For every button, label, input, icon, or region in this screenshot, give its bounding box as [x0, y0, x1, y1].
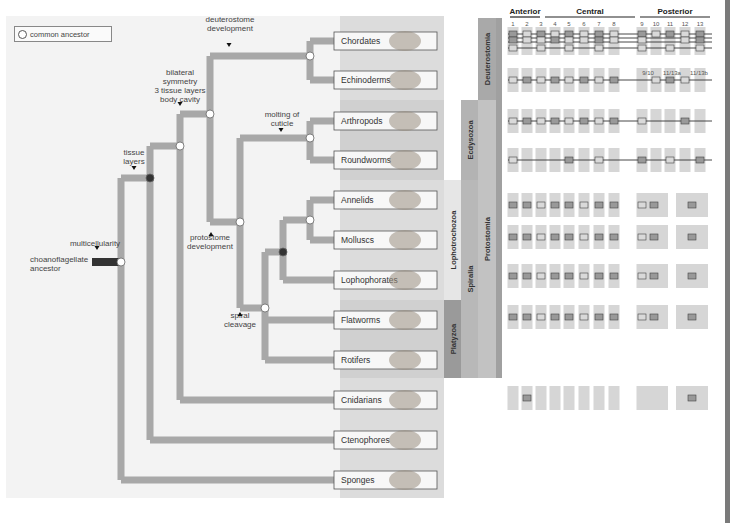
taxon-label-roundworms: Roundworms — [341, 155, 391, 165]
hox-gene-box — [565, 37, 573, 43]
hox-gene-box — [580, 273, 588, 279]
hox-gene-box — [650, 273, 658, 279]
hox-gene-box — [551, 37, 559, 43]
hox-gene-box — [551, 273, 559, 279]
hox-gene-box — [509, 31, 517, 37]
hox-gene-box — [523, 118, 531, 124]
filled-node-icon — [279, 248, 287, 256]
event-label-bilateral: symmetry — [163, 77, 198, 86]
branch — [147, 178, 154, 440]
hox-gene-box — [509, 314, 517, 320]
event-label-deuterostome: deuterostome — [206, 15, 255, 24]
clade-label: Protostomia — [483, 216, 492, 261]
gene-number: 4 — [553, 21, 557, 27]
legend-label: common ancestor — [30, 30, 90, 39]
branch — [177, 146, 184, 400]
branch — [118, 262, 125, 480]
gene-column — [508, 386, 519, 410]
common-ancestor-node-icon — [306, 52, 314, 60]
gene-number: 5 — [567, 21, 571, 27]
branch — [265, 357, 344, 364]
event-label-tissue: tissue — [124, 148, 145, 157]
hox-gene-box — [666, 31, 674, 37]
branch — [147, 146, 154, 178]
hox-gene-box — [688, 234, 696, 240]
gene-number: 7 — [597, 21, 601, 27]
hox-gene-box — [551, 31, 559, 37]
hox-gene-box — [638, 273, 646, 279]
hox-gene-box — [610, 37, 618, 43]
hox-gene-box — [638, 314, 646, 320]
gene-number: 3 — [539, 21, 543, 27]
branch — [118, 178, 125, 262]
gene-number: 10 — [653, 21, 660, 27]
hox-gene-box — [638, 157, 646, 163]
taxon-label-chordates: Chordates — [341, 36, 380, 46]
gene-number: 12 — [682, 21, 689, 27]
organism-illustration — [389, 190, 421, 210]
hox-gene-box — [638, 234, 646, 240]
branch — [265, 317, 344, 324]
taxon-label-sponges: Sponges — [341, 475, 375, 485]
common-ancestor-node-icon — [306, 216, 314, 224]
hox-gene-box — [537, 45, 545, 51]
common-ancestor-node-icon — [261, 304, 269, 312]
branch — [237, 138, 244, 222]
branch — [262, 308, 269, 360]
hox-gene-box — [551, 314, 559, 320]
hox-gene-box — [537, 37, 545, 43]
hox-gene-box — [537, 202, 545, 208]
legend: common ancestor — [14, 26, 112, 42]
organism-illustration — [389, 430, 421, 450]
hox-gene-box — [610, 202, 618, 208]
hox-gene-box — [523, 314, 531, 320]
hox-gene-box — [666, 77, 674, 83]
event-label-bilateral: 3 tissue layers — [154, 86, 205, 95]
hox-gene-box — [580, 31, 588, 37]
hox-gene-box — [666, 157, 674, 163]
event-label-deuterostome: development — [207, 24, 254, 33]
open-circle-icon — [18, 30, 27, 39]
hox-gene-box — [681, 77, 689, 83]
hox-gene-box — [688, 314, 696, 320]
gene-column — [594, 386, 605, 410]
gene-column — [536, 386, 547, 410]
branch — [180, 397, 344, 404]
clade-label: Deuterostomia — [483, 32, 492, 85]
organism-illustration — [389, 470, 421, 490]
hox-gene-box — [551, 234, 559, 240]
hox-gene-box — [696, 37, 704, 43]
organism-illustration — [389, 390, 421, 410]
organism-illustration — [389, 350, 421, 370]
hox-gene-box — [551, 77, 559, 83]
clade-label: Ecdysozoa — [466, 120, 475, 160]
taxon-label-flatworms: Flatworms — [341, 315, 380, 325]
hox-gene-box — [537, 273, 545, 279]
hox-gene-box — [509, 234, 517, 240]
hox-gene-box — [652, 77, 660, 83]
branch — [150, 437, 344, 444]
gene-number: 8 — [612, 21, 616, 27]
organism-illustration — [389, 70, 421, 90]
hox-gene-box — [509, 202, 517, 208]
hox-header-posterior: Posterior — [657, 7, 692, 16]
organism-illustration — [389, 111, 421, 131]
hox-gene-box — [610, 234, 618, 240]
hox-gene-box — [595, 234, 603, 240]
hox-gene-box — [595, 37, 603, 43]
organism-illustration — [389, 31, 421, 51]
hox-gene-box — [595, 273, 603, 279]
hox-gene-box — [650, 314, 658, 320]
hox-gene-box — [509, 157, 517, 163]
hox-gene-box — [638, 37, 646, 43]
branch — [207, 114, 214, 222]
hox-gene-box — [565, 118, 573, 124]
gene-sub-label: 9/10 — [642, 70, 654, 76]
hox-gene-box — [666, 45, 674, 51]
hox-gene-box — [595, 118, 603, 124]
event-label-molting: molting of — [265, 110, 300, 119]
hox-gene-box — [696, 31, 704, 37]
hox-gene-box — [580, 202, 588, 208]
event-label-spiral: cleavage — [224, 320, 257, 329]
clade-label: Spiralia — [466, 265, 475, 293]
